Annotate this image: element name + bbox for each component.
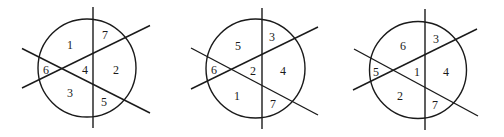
diagram-3: 6 3 5 1 4 2 7 (353, 9, 478, 130)
region-label: 1 (67, 38, 73, 52)
region-label: 3 (67, 86, 73, 100)
region-label: 4 (82, 63, 88, 77)
region-label: 4 (443, 65, 449, 79)
region-label: 5 (101, 95, 107, 109)
region-label: 3 (433, 32, 439, 46)
rising-line (353, 29, 477, 90)
region-label: 2 (250, 64, 256, 78)
region-label: 5 (373, 65, 379, 79)
falling-line (22, 49, 150, 114)
region-label: 7 (432, 98, 438, 112)
rising-line (22, 26, 150, 89)
region-label: 2 (397, 89, 403, 103)
region-label: 3 (269, 30, 275, 44)
diagram-canvas: 1 7 6 4 2 3 5 5 3 6 2 4 1 7 6 3 5 1 4 2 … (0, 0, 504, 137)
region-label: 2 (113, 63, 119, 77)
region-label: 6 (43, 63, 49, 77)
region-label: 6 (400, 39, 406, 53)
diagram-1: 1 7 6 4 2 3 5 (22, 7, 150, 128)
region-label: 1 (234, 89, 240, 103)
region-label: 4 (280, 64, 286, 78)
region-label: 6 (211, 63, 217, 77)
region-label: 7 (102, 28, 108, 42)
diagram-2: 5 3 6 2 4 1 7 (191, 8, 318, 129)
region-label: 7 (270, 97, 276, 111)
region-label: 5 (235, 39, 241, 53)
region-label: 1 (414, 65, 420, 79)
